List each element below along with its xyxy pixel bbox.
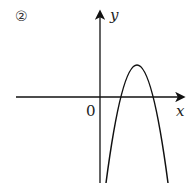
parabola-curve [106,65,168,183]
origin-label: 0 [86,102,96,120]
x-axis-label: x [176,102,185,120]
graph: ② y x 0 [0,0,193,189]
y-axis-label: y [109,6,119,24]
panel-label: ② [15,8,28,24]
